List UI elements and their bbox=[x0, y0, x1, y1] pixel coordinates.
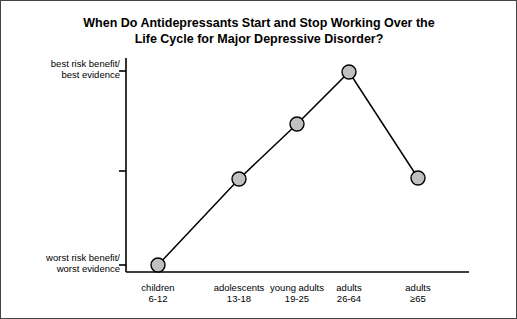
y-tick-label-best-line-2: best evidence bbox=[61, 69, 120, 80]
x-tick-label-adults-65plus-name: adults bbox=[405, 282, 430, 293]
y-tick-label-worst: worst risk benefit/ worst evidence bbox=[10, 252, 120, 274]
x-tick-label-adults-65plus-range: ≥65 bbox=[372, 293, 464, 304]
data-point-adults-65plus bbox=[411, 171, 425, 185]
y-tick-label-best: best risk benefit/ best evidence bbox=[10, 58, 120, 80]
x-tick-label-children-range: 6-12 bbox=[112, 293, 204, 304]
chart-figure: When Do Antidepressants Start and Stop W… bbox=[0, 0, 517, 319]
y-tick-label-worst-line-1: worst risk benefit/ bbox=[46, 252, 120, 263]
data-point-young-adults bbox=[290, 117, 304, 131]
data-point-adolescents bbox=[232, 172, 246, 186]
x-tick-label-children-name: children bbox=[141, 282, 174, 293]
data-point-children bbox=[151, 258, 165, 272]
y-tick-label-worst-line-2: worst evidence bbox=[57, 263, 120, 274]
x-tick-label-adults-65plus: adults ≥65 bbox=[372, 282, 464, 304]
x-tick-label-adults-26-64-name: adults bbox=[336, 282, 361, 293]
data-series-line bbox=[158, 72, 418, 265]
y-tick-label-best-line-1: best risk benefit/ bbox=[51, 58, 120, 69]
data-point-adults-26-64 bbox=[342, 65, 356, 79]
x-tick-label-children: children 6-12 bbox=[112, 282, 204, 304]
